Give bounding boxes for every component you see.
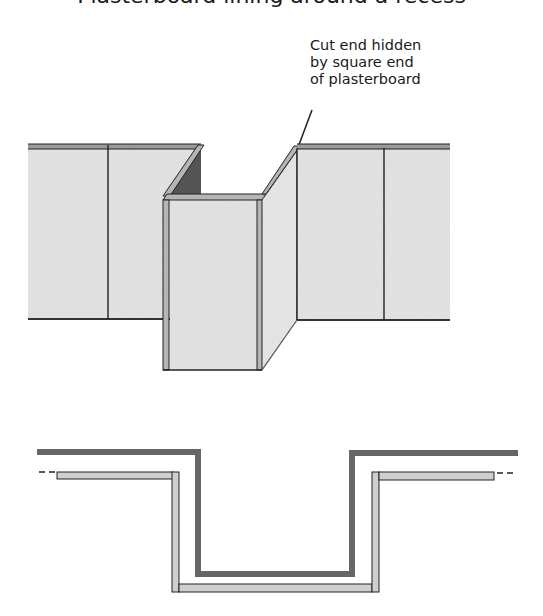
recess-top-edge [163, 194, 266, 200]
recess-side-face [262, 150, 297, 370]
left-wall-top-edge [28, 144, 201, 149]
plan-board-right-return [372, 472, 379, 592]
recess-left-edge [163, 200, 169, 370]
plan-board-left [57, 472, 173, 479]
elevation-view [28, 144, 450, 370]
diagram-canvas [0, 0, 543, 616]
recess-right-edge [257, 200, 262, 370]
plan-board-right [379, 472, 494, 480]
plan-board-back [179, 584, 372, 592]
plan-wall-line [37, 452, 518, 574]
plan-board-left-return [172, 472, 179, 592]
right-wall-top-edge [297, 144, 450, 149]
plan-view [37, 452, 518, 592]
right-wall-panel [297, 148, 450, 320]
recess-front-face [170, 200, 257, 370]
